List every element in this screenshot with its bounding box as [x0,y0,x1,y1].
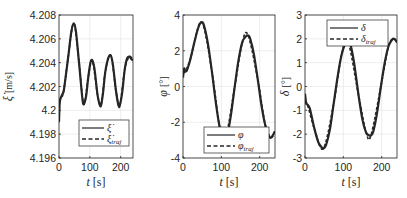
legend: ξ̇ξ̇traj [79,120,129,146]
y-tick-label: -2 [171,116,180,128]
x-axis-label: t [s] [86,175,105,189]
x-tick-label: 100 [335,161,353,173]
y-tick-label: 2 [174,45,180,57]
y-tick-label: 1 [296,57,302,69]
x-axis-label: t [s] [341,175,360,189]
x-tick-label: 0 [56,161,62,173]
x-tick-label: 200 [112,161,130,173]
y-tick-label: 4.2 [41,104,56,116]
legend: φφtraj [204,127,269,153]
y-tick-label: 4.196 [30,152,56,164]
y-tick-label: 4.204 [30,57,56,69]
y-tick-label: -2 [293,128,302,140]
y-tick-label: 4.202 [30,81,56,93]
x-tick-label: 0 [302,161,308,173]
y-tick-label: 2 [296,33,302,45]
x-tick-label: 200 [251,161,269,173]
legend-label-measured: δ [361,22,366,33]
x-tick-label: 200 [373,161,391,173]
panel-phi: 0100200-4-2024t [s]φ [°]φφtraj [156,9,275,189]
y-tick-label: 3 [296,9,302,21]
y-tick-label: 4.206 [30,33,56,45]
y-tick-label: -1 [293,104,302,116]
y-axis-label: δ [°] [278,77,292,96]
x-axis-label: t [s] [219,175,238,189]
y-tick-label: -3 [293,152,302,164]
panel-xi-dot: 01002004.1964.1984.24.2024.2044.2064.208… [1,9,133,189]
legend-label-measured: φ [238,129,244,140]
x-tick-label: 100 [213,161,231,173]
y-tick-label: 4.208 [30,9,56,21]
x-tick-label: 100 [81,161,99,173]
legend: δδtraj [327,20,388,46]
figure: 01002004.1964.1984.24.2024.2044.2064.208… [0,0,407,198]
y-tick-label: 0 [296,81,302,93]
panel-delta: 0100200-3-2-10123t [s]δ [°]δδtraj [278,9,397,189]
y-tick-label: -4 [171,152,180,164]
y-axis-label: φ [°] [156,76,170,96]
y-tick-label: 4 [174,9,180,21]
x-tick-label: 0 [180,161,186,173]
y-tick-label: 4.198 [30,128,56,140]
y-axis-label: ξ̇ [m/s] [1,72,15,101]
y-tick-label: 0 [174,81,180,93]
